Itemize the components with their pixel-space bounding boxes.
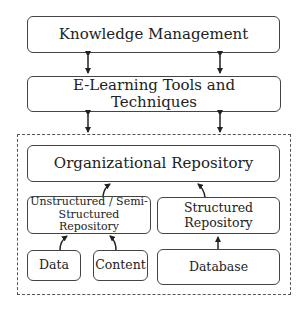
connector-arrows (0, 0, 306, 312)
arrow-structured-to-org (198, 184, 205, 197)
arrow-data-to-unstructured (60, 236, 67, 250)
arrow-content-to-unstructured (110, 236, 116, 250)
arrow-unstructured-to-org (103, 184, 110, 196)
